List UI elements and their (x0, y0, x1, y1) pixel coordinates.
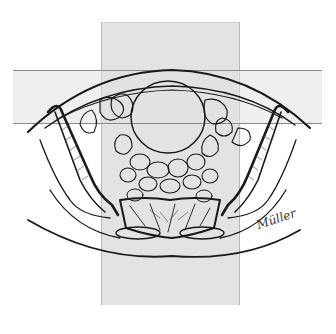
pelvis-cross-section-drawing (0, 0, 336, 334)
pelvis-illustration: Müller (0, 0, 336, 334)
